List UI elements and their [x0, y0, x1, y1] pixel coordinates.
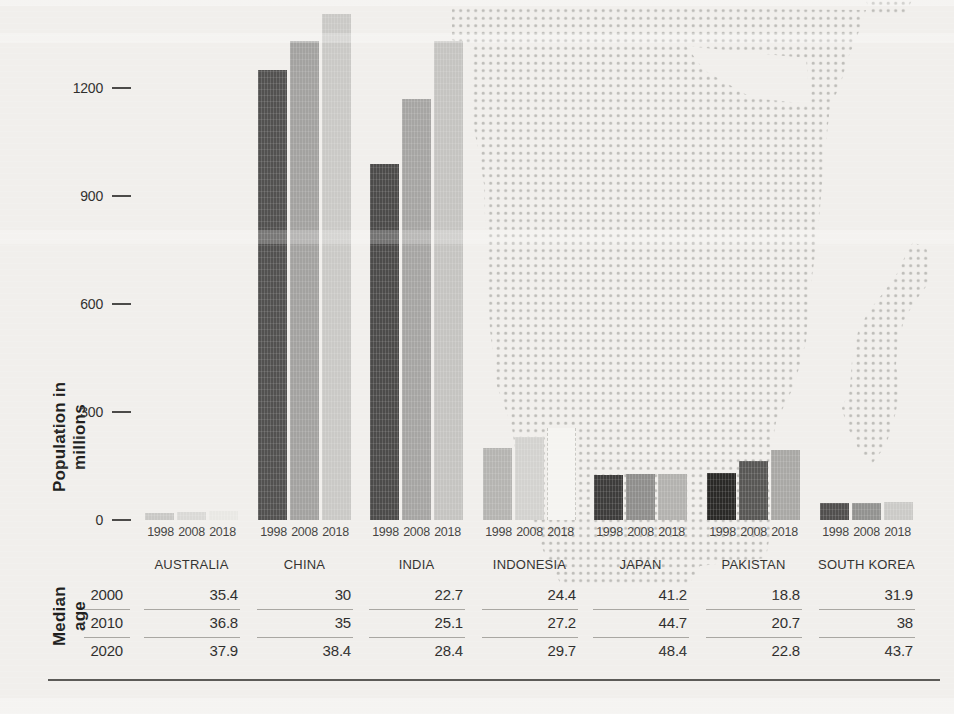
bars-australia	[145, 511, 238, 520]
y-tick-label-900: 900	[43, 187, 103, 205]
y-tick-label-0: 0	[43, 511, 103, 529]
age-australia-2020: 37.9	[144, 638, 240, 665]
country-group-india: 199820082018INDIA	[370, 41, 463, 520]
bars-india	[370, 41, 463, 520]
year-label: 2008	[176, 525, 207, 539]
age-row-label-2010: 2010	[84, 610, 130, 638]
bars-indonesia	[483, 428, 576, 520]
age-column-japan: 41.244.748.4	[593, 582, 689, 665]
year-label: 1998	[145, 525, 176, 539]
age-indonesia-2000: 24.4	[482, 582, 578, 610]
bar-indonesia-2008	[515, 437, 544, 520]
country-group-japan: 199820082018JAPAN	[594, 474, 687, 520]
age-indonesia-2020: 29.7	[482, 638, 578, 665]
age-china-2020: 38.4	[257, 638, 353, 665]
age-column-south-korea: 31.93843.7	[819, 582, 915, 665]
country-label-pakistan: PAKISTAN	[693, 557, 814, 572]
age-indonesia-2010: 27.2	[482, 610, 578, 638]
bar-china-2008	[290, 41, 319, 520]
year-label: 2018	[320, 525, 351, 539]
y-axis-title: Population in millions	[50, 358, 90, 516]
bar-australia-2008	[177, 512, 206, 520]
country-group-indonesia: 199820082018INDONESIA	[483, 428, 576, 520]
bar-japan-2008	[626, 474, 655, 520]
year-label: 2018	[769, 525, 800, 539]
age-south-korea-2010: 38	[819, 610, 915, 638]
age-row-label-2020: 2020	[84, 638, 130, 665]
bars-pakistan	[707, 450, 800, 520]
year-label: 2018	[545, 525, 576, 539]
bar-australia-1998	[145, 513, 174, 520]
bar-south-korea-2018	[884, 502, 913, 520]
age-india-2000: 22.7	[369, 582, 465, 610]
bar-pakistan-2008	[739, 461, 768, 520]
year-labels-pakistan: 199820082018	[707, 525, 800, 539]
age-australia-2010: 36.8	[144, 610, 240, 638]
year-label: 1998	[820, 525, 851, 539]
country-label-australia: AUSTRALIA	[131, 557, 252, 572]
year-label: 2008	[401, 525, 432, 539]
country-label-india: INDIA	[356, 557, 477, 572]
age-australia-2000: 35.4	[144, 582, 240, 610]
bar-india-1998	[370, 164, 399, 520]
year-labels-australia: 199820082018	[145, 525, 238, 539]
year-label: 2008	[738, 525, 769, 539]
year-label: 1998	[258, 525, 289, 539]
y-tick-mark-1200	[112, 87, 131, 89]
bar-pakistan-2018	[771, 450, 800, 520]
age-row-label-2000: 2000	[84, 582, 130, 610]
country-label-china: CHINA	[244, 557, 365, 572]
y-tick-label-300: 300	[43, 403, 103, 421]
y-tick-label-1200: 1200	[43, 79, 103, 97]
bar-china-1998	[258, 70, 287, 520]
age-column-pakistan: 18.820.722.8	[706, 582, 802, 665]
country-group-australia: 199820082018AUSTRALIA	[145, 511, 238, 520]
island-dots	[842, 242, 931, 464]
year-labels-japan: 199820082018	[594, 525, 687, 539]
bar-south-korea-1998	[820, 503, 849, 520]
age-china-2010: 35	[257, 610, 353, 638]
bar-india-2008	[402, 99, 431, 520]
age-pakistan-2000: 18.8	[706, 582, 802, 610]
age-column-china: 303538.4	[257, 582, 353, 665]
age-row-labels: 200020102020	[84, 582, 130, 665]
corner-dots	[866, 0, 912, 15]
age-japan-2000: 41.2	[593, 582, 689, 610]
bar-japan-1998	[594, 475, 623, 520]
year-label: 2018	[432, 525, 463, 539]
bars-south-korea	[820, 502, 913, 520]
year-labels-indonesia: 199820082018	[483, 525, 576, 539]
y-tick-mark-900	[112, 195, 131, 197]
bar-japan-2018	[658, 474, 687, 520]
year-label: 2008	[625, 525, 656, 539]
y-tick-mark-300	[112, 411, 131, 413]
bottom-rule	[48, 679, 940, 681]
year-label: 2008	[851, 525, 882, 539]
year-label: 2018	[882, 525, 913, 539]
age-pakistan-2010: 20.7	[706, 610, 802, 638]
bars-japan	[594, 474, 687, 520]
country-label-indonesia: INDONESIA	[469, 557, 590, 572]
y-tick-mark-600	[112, 303, 131, 305]
year-label: 1998	[370, 525, 401, 539]
year-labels-india: 199820082018	[370, 525, 463, 539]
year-label: 1998	[707, 525, 738, 539]
bar-india-2018	[434, 41, 463, 520]
bar-south-korea-2008	[852, 503, 881, 520]
bar-pakistan-1998	[707, 473, 736, 520]
bar-indonesia-2018	[547, 428, 576, 520]
year-labels-south-korea: 199820082018	[820, 525, 913, 539]
bars-china	[258, 14, 351, 520]
age-pakistan-2020: 22.8	[706, 638, 802, 665]
year-label: 2018	[656, 525, 687, 539]
country-label-japan: JAPAN	[580, 557, 701, 572]
year-labels-china: 199820082018	[258, 525, 351, 539]
age-column-indonesia: 24.427.229.7	[482, 582, 578, 665]
year-label: 2008	[514, 525, 545, 539]
population-median-age-chart: Population in millions Median age 030060…	[0, 0, 954, 714]
age-column-india: 22.725.128.4	[369, 582, 465, 665]
age-china-2000: 30	[257, 582, 353, 610]
year-label: 1998	[594, 525, 625, 539]
age-india-2010: 25.1	[369, 610, 465, 638]
country-group-china: 199820082018CHINA	[258, 14, 351, 520]
